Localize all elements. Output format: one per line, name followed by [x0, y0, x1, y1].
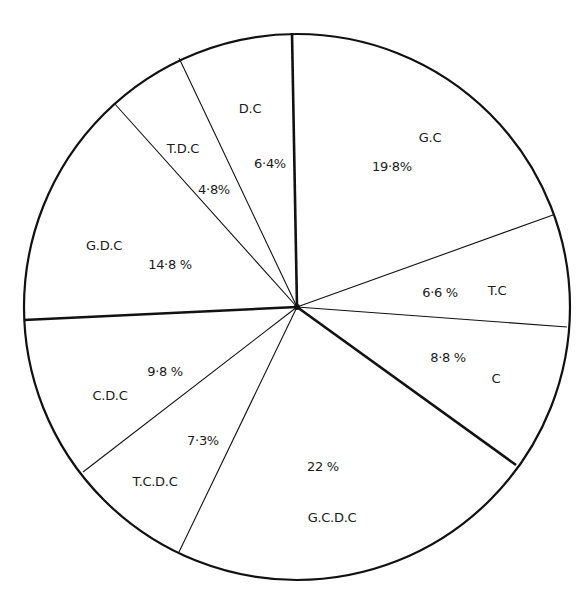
slice-label-tdc-name: T.D.C [167, 141, 199, 156]
slice-label-gdc-value: 14·8 % [148, 257, 192, 272]
slice-label-tc-name: T.C [488, 283, 507, 298]
slice-label-cdc-value: 9·8 % [147, 364, 183, 379]
slice-label-gcdc-name: G.C.D.C [308, 510, 357, 525]
slice-label-gdc-name: G.D.C [86, 238, 122, 253]
slice-label-tcdc-name: T.C.D.C [133, 474, 178, 489]
pie-center [294, 304, 300, 310]
slice-label-dc-name: D.C [239, 101, 261, 116]
slice-label-gc-name: G.C [419, 130, 441, 145]
pie-chart [0, 0, 585, 603]
slice-label-c-name: C [492, 371, 501, 386]
slice-label-tdc-value: 4·8% [198, 182, 230, 197]
slice-label-dc-value: 6·4% [254, 156, 286, 171]
slice-label-gc-value: 19·8% [372, 159, 412, 174]
slice-label-tc-value: 6·6 % [422, 285, 458, 300]
slice-label-tcdc-value: 7·3% [187, 433, 219, 448]
slice-label-cdc-name: C.D.C [93, 388, 128, 403]
slice-label-gcdc-value: 22 % [307, 459, 339, 474]
slice-label-c-value: 8·8 % [430, 350, 466, 365]
